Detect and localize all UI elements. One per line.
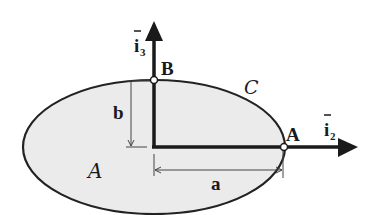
label-semi-major-a: a (211, 173, 221, 194)
i2-base: i (324, 119, 329, 140)
label-curve-c: C (244, 76, 259, 98)
label-axis-i3: i 3 (134, 31, 146, 58)
i2-subscript: 2 (330, 130, 336, 142)
i3-subscript: 3 (140, 46, 146, 58)
label-area-a: A (86, 159, 102, 183)
vertical-axis-arrowhead (145, 21, 163, 41)
label-axis-i2: i 2 (324, 115, 336, 142)
ellipse-diagram: B A C A b a i 3 i 2 (0, 0, 382, 215)
i3-base: i (134, 35, 139, 56)
point-b-marker (151, 77, 158, 84)
label-point-a: A (286, 124, 300, 145)
label-point-b: B (161, 58, 174, 79)
label-semi-minor-b: b (113, 102, 124, 123)
horizontal-axis-arrowhead (338, 138, 358, 157)
